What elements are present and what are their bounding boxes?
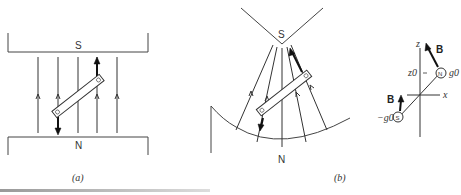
charge-bottom-label: −g0	[377, 112, 394, 123]
panel-a: S N (a)	[8, 33, 148, 184]
panel-c: z x z0 N g0 S −g0 B B	[377, 38, 459, 137]
charge-top-label: g0	[449, 67, 459, 78]
bar-magnet-b	[256, 70, 311, 116]
z-axis-label: z	[415, 38, 420, 49]
z0-label: z0	[407, 67, 417, 78]
magnet-diagram: S N (a)	[0, 0, 461, 195]
caption-b: (b)	[334, 172, 346, 184]
x-axis-label: x	[442, 89, 448, 100]
south-pole-label-a: S	[75, 40, 82, 51]
field-label-bottom: B	[387, 94, 394, 105]
page-edge-shadow	[0, 189, 210, 192]
caption-a: (a)	[72, 172, 84, 184]
south-pole-symbol: S	[396, 115, 400, 121]
north-pole-label-a: N	[75, 140, 82, 151]
north-pole-concave-b	[211, 106, 350, 153]
south-pole-label-b: S	[278, 29, 285, 40]
field-label-top: B	[436, 44, 443, 55]
field-arrows-c	[398, 43, 438, 111]
north-pole-symbol: N	[438, 71, 442, 77]
north-pole-label-b: N	[278, 154, 285, 165]
panel-b: S N (b)	[211, 8, 350, 184]
